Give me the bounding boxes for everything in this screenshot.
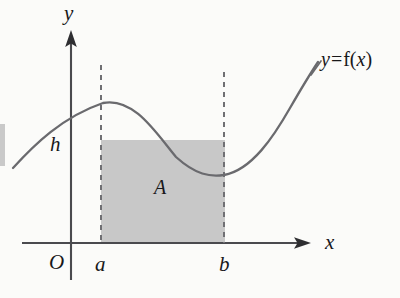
curve-equation-paren-close: )	[365, 48, 372, 70]
y-axis-label: y	[64, 3, 73, 24]
curve-equation-equals: =	[330, 48, 343, 70]
curve-equation-fn: f(	[343, 48, 356, 70]
curve-equation-y: y	[321, 48, 330, 70]
curve-equation-label: y=f(x)	[321, 49, 372, 69]
height-label: h	[50, 134, 61, 155]
x-axis-label: x	[325, 232, 334, 253]
area-label: A	[154, 177, 166, 197]
upper-limit-label: b	[219, 254, 230, 275]
math-figure: y x O h a b A y=f(x)	[0, 0, 400, 298]
lower-limit-label: a	[95, 254, 106, 275]
origin-label: O	[49, 252, 64, 273]
